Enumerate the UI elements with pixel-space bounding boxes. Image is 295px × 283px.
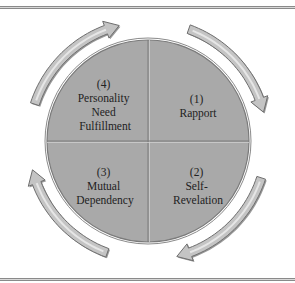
quadrant-3-title-line2: Dependency bbox=[76, 194, 134, 207]
quadrant-1-number: (1) bbox=[190, 93, 204, 106]
quadrant-2-title-line1: Self- bbox=[185, 180, 208, 192]
quadrant-4-title-line1: Personality bbox=[78, 92, 130, 105]
quadrant-1-title: Rapport bbox=[179, 107, 217, 120]
quadrant-4-number: (4) bbox=[97, 78, 111, 91]
quadrant-3-title-line1: Mutual bbox=[87, 180, 120, 192]
quadrant-3-number: (3) bbox=[97, 166, 111, 179]
cycle-diagram: (1) Rapport (2) Self- Revelation (3) Mut… bbox=[0, 0, 295, 283]
quadrant-2-title-line2: Revelation bbox=[173, 194, 223, 206]
quadrant-4-title-line2: Need bbox=[91, 106, 116, 118]
quadrant-4-title-line3: Fulfillment bbox=[79, 120, 132, 132]
quadrant-2-number: (2) bbox=[190, 166, 204, 179]
circle bbox=[45, 38, 251, 244]
